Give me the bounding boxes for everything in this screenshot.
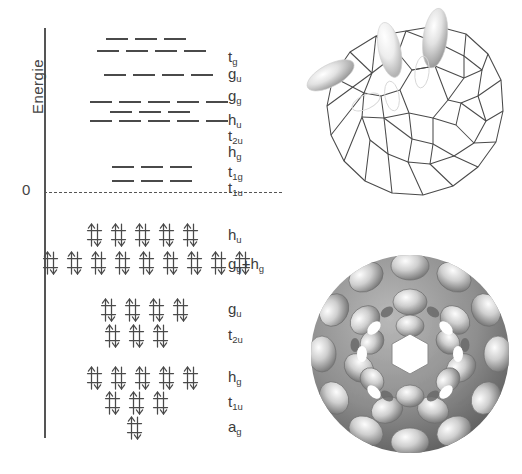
electron-pair-arrows-icon xyxy=(124,297,141,323)
level-dash xyxy=(112,166,134,168)
term-label-hg: hg xyxy=(228,144,242,159)
electron-pair-arrows-icon xyxy=(100,297,117,323)
virtual-level-t1g xyxy=(112,165,192,169)
level-dash xyxy=(164,38,186,40)
level-dash xyxy=(177,120,199,122)
energy-axis-label: Energie xyxy=(29,32,46,142)
electron-density-isosurface xyxy=(305,250,515,462)
level-dash xyxy=(90,120,112,122)
term-label-gg: gg+hg xyxy=(228,256,264,271)
level-dash xyxy=(168,111,190,113)
energy-level-diagram: Energie 0 tggugghut2uhgt1gt1u hugg+hggut… xyxy=(0,0,290,474)
electron-pair-arrows-icon xyxy=(148,297,165,323)
term-label-t1u: t1u xyxy=(228,394,243,409)
term-label-hg: hg xyxy=(228,369,242,384)
electron-pair-arrows-icon xyxy=(128,323,145,349)
level-dash xyxy=(206,120,228,122)
electron-pair-arrows-icon xyxy=(186,250,203,276)
electron-pair-arrows-icon xyxy=(110,222,127,248)
level-dash xyxy=(106,38,128,40)
level-dash xyxy=(119,101,141,103)
p-orbital-lobes xyxy=(302,7,451,115)
electron-pair-arrows-icon xyxy=(134,222,151,248)
level-dash xyxy=(110,111,132,113)
level-dash xyxy=(206,101,228,103)
electron-pair-arrows-icon xyxy=(158,222,175,248)
level-dash xyxy=(104,74,126,76)
electron-density-figure xyxy=(305,250,515,462)
level-dash xyxy=(170,180,192,182)
level-dash xyxy=(135,38,157,40)
level-dash xyxy=(126,50,148,52)
term-label-gu: gu xyxy=(228,301,242,316)
level-dash xyxy=(97,50,119,52)
electron-pair-arrows-icon xyxy=(104,390,121,416)
level-dash xyxy=(141,180,163,182)
level-dash xyxy=(148,101,170,103)
orbital-lobe-3 xyxy=(419,7,451,70)
electron-pair-arrows-icon xyxy=(182,222,199,248)
virtual-level-hu xyxy=(90,100,228,104)
electron-pair-arrows-icon xyxy=(162,250,179,276)
electron-pair-arrows-icon xyxy=(66,250,83,276)
electron-pair-arrows-icon xyxy=(172,297,189,323)
virtual-level-hg xyxy=(90,119,228,123)
level-dash xyxy=(141,166,163,168)
virtual-level-gu xyxy=(97,49,206,53)
orbital-lobe-2 xyxy=(373,20,406,79)
electron-pair-arrows-icon xyxy=(86,365,103,391)
virtual-level-t2u xyxy=(110,110,190,114)
level-dash xyxy=(170,166,192,168)
electron-pair-arrows-icon xyxy=(104,323,121,349)
occupied-level-h_u xyxy=(86,222,199,248)
electron-pair-arrows-icon xyxy=(210,250,227,276)
level-dash xyxy=(90,101,112,103)
electron-pair-arrows-icon xyxy=(158,365,175,391)
occupied-level-a_g xyxy=(126,415,143,441)
orbital-lobe-node-2 xyxy=(383,80,402,112)
level-dash xyxy=(119,120,141,122)
electron-pair-arrows-icon xyxy=(126,415,143,441)
cage-edges xyxy=(327,26,503,195)
level-dash xyxy=(184,50,206,52)
electron-pair-arrows-icon xyxy=(90,250,107,276)
electron-pair-arrows-icon xyxy=(114,250,131,276)
term-label-hu: hu xyxy=(228,227,242,242)
fullerene-cage-wireframe xyxy=(288,4,522,219)
electron-pair-arrows-icon xyxy=(110,365,127,391)
term-label-tg: tg xyxy=(228,49,237,64)
virtual-level-t1u xyxy=(112,179,192,183)
term-label-t2u: t2u xyxy=(228,327,243,342)
occupied-level-t_2u xyxy=(104,323,169,349)
electron-pair-arrows-icon xyxy=(134,365,151,391)
level-dash xyxy=(139,111,161,113)
level-dash xyxy=(112,180,134,182)
electron-pair-arrows-icon xyxy=(152,323,169,349)
orbital-lobe-node-3 xyxy=(413,55,430,88)
occupied-level-g_u xyxy=(100,297,189,323)
level-dash xyxy=(177,101,199,103)
term-label-hu: hu xyxy=(228,112,242,127)
electron-pair-arrows-icon xyxy=(86,222,103,248)
occupied-level-g_gplush_g xyxy=(42,250,251,276)
electron-pair-arrows-icon xyxy=(42,250,59,276)
term-label-t1g: t1g xyxy=(228,164,243,179)
electron-pair-arrows-icon xyxy=(138,250,155,276)
level-dash xyxy=(133,74,155,76)
electron-pair-arrows-icon xyxy=(182,365,199,391)
occupied-level-h_g xyxy=(86,365,199,391)
occupied-level-t_1u xyxy=(104,390,169,416)
zero-reference-line xyxy=(44,192,282,193)
electron-pair-arrows-icon xyxy=(128,390,145,416)
level-dash xyxy=(162,74,184,76)
level-dash xyxy=(155,50,177,52)
term-label-t1u: t1u xyxy=(228,180,243,195)
zero-tick-label: 0 xyxy=(22,181,30,198)
electron-pair-arrows-icon xyxy=(152,390,169,416)
virtual-level-gg xyxy=(104,73,213,77)
term-label-gg: gg xyxy=(228,88,242,103)
term-label-t2u: t2u xyxy=(228,128,243,143)
level-dash xyxy=(191,74,213,76)
fullerene-cage-figure xyxy=(288,4,522,219)
level-dash xyxy=(148,120,170,122)
